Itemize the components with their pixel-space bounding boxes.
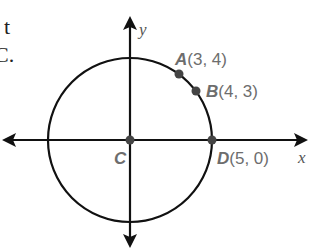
point-d-label: D(5, 0)	[217, 149, 269, 168]
point-b-letter: B	[206, 82, 218, 101]
point-a-dot	[175, 70, 184, 79]
point-d-letter: D	[217, 149, 229, 168]
point-b-label: B(4, 3)	[206, 82, 258, 101]
point-c-label: C	[114, 149, 127, 168]
point-d-coords: (5, 0)	[229, 149, 269, 168]
coordinate-diagram: y x A(3, 4) B(4, 3) C D(5, 0)	[0, 0, 314, 252]
y-axis	[123, 16, 137, 248]
point-d-dot	[208, 136, 217, 145]
point-c-dot	[126, 136, 135, 145]
x-axis-label: x	[297, 148, 306, 167]
point-a-letter: A	[174, 50, 187, 69]
point-b-coords: (4, 3)	[218, 82, 258, 101]
y-axis-label: y	[137, 20, 147, 39]
point-b-dot	[192, 87, 201, 96]
point-a-label: A(3, 4)	[174, 50, 227, 69]
point-c-letter: C	[114, 149, 127, 168]
point-a-coords: (3, 4)	[187, 50, 227, 69]
